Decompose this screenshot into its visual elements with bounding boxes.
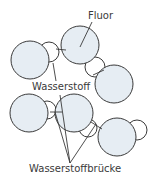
fluorine-atom	[98, 118, 136, 156]
fluorine-atom	[10, 94, 48, 132]
fluorine-atom	[95, 65, 133, 103]
hf-hydrogen-bond-diagram: Fluor Wasserstoff Wasserstoffbrücke	[0, 0, 152, 181]
hydrogen-leader-line	[53, 63, 56, 81]
hydrogen-bond-label: Wasserstoffbrücke	[29, 164, 121, 174]
fluorine-atom	[11, 41, 49, 79]
fluorine-atom	[61, 26, 99, 64]
fluorine-label: Fluor	[88, 11, 113, 21]
hydrogen-label: Wasserstoff	[32, 82, 90, 92]
